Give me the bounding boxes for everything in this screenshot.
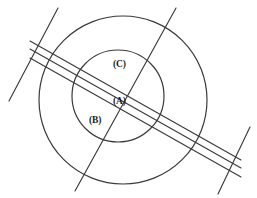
label-b: (B) <box>89 116 101 126</box>
figure-canvas: (C) (A) (B) <box>0 0 257 198</box>
label-a: (A) <box>113 97 126 107</box>
band-line-lower <box>30 58 241 177</box>
label-c: (C) <box>113 60 126 70</box>
transversal-left-line <box>9 8 58 101</box>
band-line-middle <box>30 49 241 168</box>
transversal-right-line <box>218 127 250 194</box>
diagram-svg <box>0 0 257 198</box>
band-line-upper <box>30 41 241 160</box>
